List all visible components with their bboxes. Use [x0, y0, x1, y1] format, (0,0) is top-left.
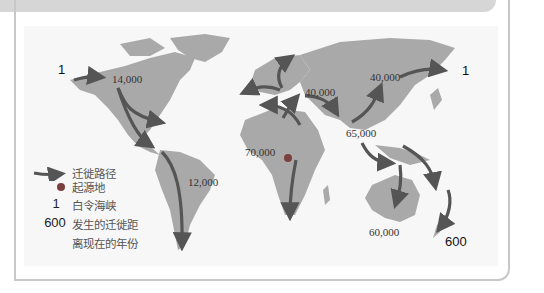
label-new-zealand: 600: [445, 234, 467, 249]
legend-key-bering: 1: [46, 196, 66, 211]
label-alaska-start: 1: [58, 62, 65, 77]
arrow-icon: [32, 167, 70, 181]
legend-label-years-2: 离现在的年份: [72, 235, 138, 251]
dot-icon: [57, 183, 65, 191]
legend-label-years-1: 发生的迁徙距: [72, 216, 138, 232]
label-africa: 70,000: [245, 146, 275, 158]
label-south-asia: 65,000: [346, 127, 376, 139]
legend-label-bering: 白令海峡: [72, 197, 116, 213]
label-siberia: 40,000: [370, 71, 400, 83]
origin-dot: [284, 154, 292, 162]
label-europe: 40,000: [305, 86, 335, 98]
label-north-america: 14,000: [112, 73, 142, 85]
legend-label-origin: 起源地: [72, 179, 105, 195]
label-australia: 60,000: [369, 226, 399, 238]
legend-key-years: 600: [40, 215, 70, 230]
label-south-america: 12,000: [188, 176, 218, 188]
label-siberia-end: 1: [462, 63, 469, 78]
